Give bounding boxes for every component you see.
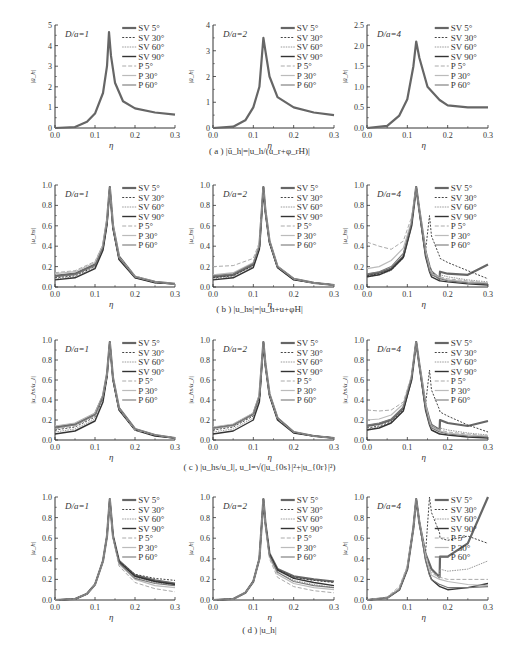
x-tick-label: 0.0 [362,443,372,452]
chart-panel-b-3: 0.00.20.40.60.81.00.00.10.20.3η|u_hs|D/a… [341,181,493,309]
legend: SV 5°SV 30°SV 60°SV 90°P 5°P 30°P 60° [122,338,165,405]
y-tick-label: 5 [48,21,52,30]
y-axis-label: |u_h| [341,541,349,555]
legend-label: SV 5° [138,183,160,193]
y-axis-label: |u_hs| [341,227,349,244]
y-axis-label: |u_hs| [29,227,37,244]
legend-label: SV 90° [297,524,324,534]
x-tick-label: 0.2 [130,443,140,452]
y-tick-label: 1.0 [354,181,364,190]
y-tick-label: 0.6 [354,376,364,385]
legend-label: P 5° [297,61,312,71]
x-tick-label: 0.3 [483,603,493,612]
legend-label: SV 30° [451,193,478,203]
caption-c: ( c ) |u_hs/u_l|, u_l=√(|u_{0s}|²+|u_{0r… [0,462,519,472]
y-tick-label: 1.0 [42,493,52,502]
x-tick-label: 0.2 [130,290,140,299]
x-tick-label: 0.1 [90,290,100,299]
legend-label: P 30° [138,543,158,553]
legend-label: P 60° [297,80,317,90]
y-tick-label: 0.4 [200,555,210,564]
y-axis-label: |u_h| [187,541,195,555]
caption-d: ( d ) |u_h| [0,625,519,635]
panel-title: D/a=1 [64,29,89,39]
legend-label: SV 90° [138,524,165,534]
x-tick-label: 0.2 [289,131,299,140]
panel-title: D/a=1 [64,189,89,199]
figure-canvas: 0123450.00.10.20.3η|ū_h|D/a=1SV 5°SV 30°… [0,0,519,646]
x-tick-label: 0.0 [50,290,60,299]
y-tick-label: 0.6 [42,534,52,543]
legend-label: SV 60° [138,202,165,212]
y-tick-label: 1.0 [42,181,52,190]
legend-label: SV 5° [297,183,319,193]
legend-label: SV 5° [297,495,319,505]
y-axis-label: |ū_h| [187,69,195,83]
y-tick-label: 3 [48,62,52,71]
caption-b: ( b ) |u_hs|=|u_h+u+φH| [0,304,519,314]
legend-label: SV 60° [138,357,165,367]
y-tick-label: 1.0 [200,181,210,190]
y-tick-label: 0.5 [354,103,364,112]
panel-title: D/a=4 [376,344,402,354]
legend-label: P 30° [451,543,471,553]
x-axis-label: η [422,612,427,622]
legend: SV 5°SV 30°SV 60°SV 90°P 5°P 30°P 60° [435,23,478,90]
y-tick-label: 1.0 [354,336,364,345]
chart-panel-d-2: 0.00.20.40.60.81.00.00.10.20.3η|u_h|D/a=… [187,493,339,622]
y-tick-label: 1 [48,103,52,112]
x-tick-label: 0.3 [170,290,180,299]
y-tick-label: 1.0 [354,83,364,92]
x-tick-label: 0.3 [170,131,180,140]
legend-label: SV 30° [138,348,165,358]
legend-label: SV 90° [451,52,478,62]
x-tick-label: 0.0 [50,443,60,452]
y-tick-label: 0.8 [42,514,52,523]
y-tick-label: 0.2 [200,416,210,425]
panel-title: D/a=2 [222,501,248,511]
legend-label: SV 5° [451,338,473,348]
x-tick-label: 0.1 [402,290,412,299]
y-tick-label: 0.6 [42,222,52,231]
x-tick-label: 0.3 [329,443,339,452]
y-tick-label: 0.8 [200,201,210,210]
legend-label: P 60° [138,240,158,250]
y-tick-label: 0.4 [200,396,210,405]
legend-label: SV 60° [451,42,478,52]
y-tick-label: 0.2 [42,575,52,584]
legend: SV 5°SV 30°SV 60°SV 90°P 5°P 30°P 60° [122,495,165,562]
legend-label: SV 90° [138,367,165,377]
x-tick-label: 0.1 [248,131,258,140]
x-axis-label: η [268,452,273,462]
legend-label: SV 5° [138,23,160,33]
y-tick-label: 0.8 [354,201,364,210]
legend-label: P 60° [138,80,158,90]
legend-label: SV 90° [451,524,478,534]
chart-panel-a-2: 012340.00.10.20.3η|ū_h|D/a=2SV 5°SV 30°S… [187,21,339,150]
legend-label: P 30° [297,386,317,396]
legend: SV 5°SV 30°SV 60°SV 90°P 5°P 30°P 60° [281,23,324,90]
x-tick-label: 0.0 [362,131,372,140]
y-axis-label: |u_h| [29,541,37,555]
legend-label: P 30° [297,71,317,81]
y-tick-label: 4 [48,42,52,51]
x-tick-label: 0.3 [483,290,493,299]
chart-panel-b-2: 0.00.20.40.60.81.00.00.10.20.3η|u_hs|D/a… [187,181,339,309]
y-tick-label: 0.2 [354,263,364,272]
legend-label: P 60° [451,395,471,405]
legend-label: SV 30° [297,505,324,515]
legend: SV 5°SV 30°SV 60°SV 90°P 5°P 30°P 60° [435,338,478,405]
legend-label: SV 60° [138,42,165,52]
chart-panel-d-1: 0.00.20.40.60.81.00.00.10.20.3η|u_h|D/a=… [29,493,180,622]
legend-label: SV 60° [138,514,165,524]
legend-label: P 30° [451,71,471,81]
legend-label: SV 60° [451,514,478,524]
legend-label: SV 90° [297,367,324,377]
x-tick-label: 0.1 [248,290,258,299]
x-tick-label: 0.2 [130,131,140,140]
legend-label: SV 5° [297,338,319,348]
chart-panel-c-3: 0.00.20.40.60.81.00.00.10.20.3η|u_hs/u_l… [341,336,493,462]
panel-title: D/a=2 [222,344,248,354]
y-tick-label: 3 [206,47,210,56]
x-tick-label: 0.3 [170,603,180,612]
